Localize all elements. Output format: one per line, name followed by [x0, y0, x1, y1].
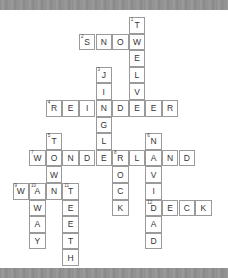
crossword-cell[interactable]: Y	[29, 233, 46, 250]
cell-letter: E	[101, 153, 107, 163]
crossword-cell[interactable]: 7W	[29, 150, 46, 167]
cell-letter: S	[84, 37, 90, 47]
crossword-cell[interactable]: 3J	[96, 67, 113, 84]
crossword-cell[interactable]: K	[112, 200, 129, 217]
crossword-cell[interactable]: O	[112, 34, 129, 51]
cell-letter: G	[100, 120, 107, 130]
cell-letter: W	[50, 170, 58, 180]
cell-letter: A	[151, 153, 157, 163]
crossword-cell[interactable]: N	[96, 34, 113, 51]
cell-letter: O	[117, 170, 124, 180]
cell-letter: V	[151, 170, 157, 180]
cell-letter: A	[35, 219, 41, 229]
crossword-cell[interactable]: V	[129, 83, 146, 100]
cell-letter: W	[133, 37, 141, 47]
crossword-cell[interactable]: 12D	[145, 200, 162, 217]
cell-letter: L	[135, 153, 140, 163]
crossword-cell[interactable]: R	[162, 100, 179, 117]
cell-letter: Y	[35, 236, 41, 246]
crossword-cell[interactable]: W	[129, 34, 146, 51]
cell-letter: I	[86, 103, 88, 113]
crossword-cell[interactable]: 6N	[145, 133, 162, 150]
crossword-cell[interactable]: T	[62, 233, 79, 250]
cell-letter: L	[101, 136, 106, 146]
clue-number: 2	[81, 35, 84, 40]
cell-letter: T	[51, 136, 56, 146]
crossword-cell[interactable]: E	[129, 100, 146, 117]
crossword-cell[interactable]: I	[145, 183, 162, 200]
cell-letter: H	[68, 253, 74, 263]
cell-letter: N	[101, 103, 107, 113]
clue-number: 1	[131, 18, 134, 23]
crossword-cell[interactable]: E	[145, 100, 162, 117]
cell-letter: D	[117, 103, 123, 113]
clue-number: 9	[15, 184, 18, 189]
crossword-cell[interactable]: C	[179, 200, 196, 217]
crossword-cell[interactable]: O	[46, 150, 63, 167]
crossword-cell[interactable]: N	[96, 100, 113, 117]
crossword-cell[interactable]: I	[79, 100, 96, 117]
crossword-cell[interactable]: N	[62, 150, 79, 167]
crossword-cell[interactable]: L	[129, 150, 146, 167]
cell-letter: N	[51, 186, 57, 196]
cell-letter: R	[167, 103, 173, 113]
crossword-cell[interactable]: L	[129, 67, 146, 84]
crossword-cell[interactable]: D	[179, 150, 196, 167]
cell-letter: W	[33, 153, 41, 163]
cell-letter: E	[151, 103, 157, 113]
cell-letter: T	[134, 20, 139, 30]
crossword-cell[interactable]: E	[62, 216, 79, 233]
crossword-cell[interactable]: A	[29, 216, 46, 233]
cell-letter: C	[117, 186, 123, 196]
clue-number: 10	[31, 184, 36, 189]
cell-letter: K	[118, 203, 124, 213]
clue-number: 7	[31, 151, 34, 156]
crossword-cell[interactable]: E	[162, 200, 179, 217]
crossword-cell[interactable]: V	[145, 166, 162, 183]
crossword-cell[interactable]: 10A	[29, 183, 46, 200]
crossword-cell[interactable]: 11T	[62, 183, 79, 200]
crossword-cell[interactable]: W	[29, 200, 46, 217]
bottom-band	[0, 268, 228, 278]
crossword-cell[interactable]: 8R	[112, 150, 129, 167]
crossword-cell[interactable]: 2S	[79, 34, 96, 51]
crossword-grid: 1TWELVE2SNO3JINGLE4REIDER5TOW6NAVI12DAD7…	[0, 0, 228, 278]
crossword-cell[interactable]: D	[112, 100, 129, 117]
crossword-cell[interactable]: L	[96, 133, 113, 150]
crossword-cell[interactable]: D	[145, 233, 162, 250]
crossword-cell[interactable]: 9W	[13, 183, 30, 200]
crossword-cell[interactable]: E	[96, 150, 113, 167]
crossword-cell[interactable]: A	[145, 150, 162, 167]
cell-letter: J	[102, 70, 106, 80]
cell-letter: E	[68, 219, 74, 229]
cell-letter: R	[117, 153, 123, 163]
crossword-cell[interactable]: W	[46, 166, 63, 183]
crossword-cell[interactable]: K	[195, 200, 212, 217]
cell-letter: C	[184, 203, 190, 213]
cell-letter: N	[101, 37, 107, 47]
crossword-cell[interactable]: I	[96, 83, 113, 100]
cell-letter: I	[152, 186, 154, 196]
cell-letter: O	[51, 153, 58, 163]
crossword-cell[interactable]: 5T	[46, 133, 63, 150]
cell-letter: E	[167, 203, 173, 213]
cell-letter: D	[151, 236, 157, 246]
crossword-cell[interactable]: E	[129, 50, 146, 67]
crossword-cell[interactable]: C	[112, 183, 129, 200]
cell-letter: N	[167, 153, 173, 163]
crossword-cell[interactable]: O	[112, 166, 129, 183]
crossword-cell[interactable]: D	[79, 150, 96, 167]
clue-number: 6	[147, 134, 150, 139]
crossword-cell[interactable]: G	[96, 117, 113, 134]
crossword-cell[interactable]: E	[62, 100, 79, 117]
crossword-cell[interactable]: N	[162, 150, 179, 167]
crossword-cell[interactable]: A	[145, 216, 162, 233]
cell-letter: T	[68, 236, 73, 246]
cell-letter: E	[68, 103, 74, 113]
crossword-cell[interactable]: 1T	[129, 17, 146, 34]
crossword-cell[interactable]: E	[62, 200, 79, 217]
cell-letter: N	[68, 153, 74, 163]
crossword-cell[interactable]: 4R	[46, 100, 63, 117]
crossword-cell[interactable]: N	[46, 183, 63, 200]
crossword-cell[interactable]: H	[62, 249, 79, 266]
